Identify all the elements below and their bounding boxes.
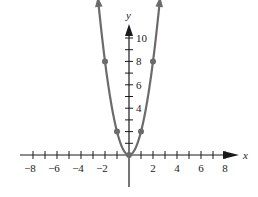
y-tick-label: 4 — [136, 102, 142, 114]
y-tick-label: 10 — [136, 32, 148, 44]
x-tick-label: 6 — [198, 162, 204, 174]
curve-arrow-right-icon — [155, 0, 163, 7]
x-tick-label: 8 — [222, 162, 228, 174]
curve-arrow-left-icon — [95, 0, 103, 7]
x-tick-label: 2 — [150, 162, 156, 174]
data-point — [150, 58, 156, 64]
x-tick-label: −6 — [48, 162, 60, 174]
data-point — [102, 58, 108, 64]
y-tick-label: 6 — [136, 79, 142, 91]
data-point — [126, 152, 132, 158]
x-tick-label: −4 — [72, 162, 84, 174]
data-point — [114, 129, 120, 135]
x-tick-label: −8 — [24, 162, 36, 174]
y-axis-arrow-icon — [125, 24, 133, 36]
x-tick-label: 4 — [174, 162, 180, 174]
x-axis-label: x — [242, 149, 248, 161]
y-axis-label: y — [125, 9, 131, 21]
x-tick-label: −2 — [96, 162, 108, 174]
parabola-chart: −8−6−4−2246846810xy — [0, 0, 258, 197]
data-point — [138, 129, 144, 135]
y-tick-label: 8 — [136, 55, 142, 67]
